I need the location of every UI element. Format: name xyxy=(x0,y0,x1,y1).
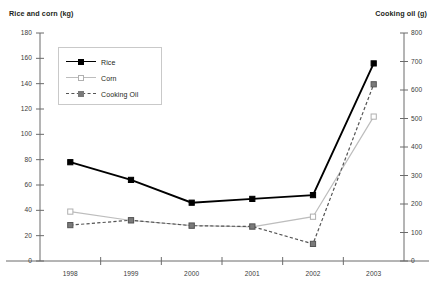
data-point xyxy=(189,200,194,205)
x-axis-tick-label: 2003 xyxy=(344,270,404,277)
data-point xyxy=(68,209,73,214)
legend-label-corn: Corn xyxy=(101,75,117,82)
right-axis-tick-label: 600 xyxy=(411,86,433,93)
left-axis-tick-label: 0 xyxy=(10,257,32,264)
x-axis-tick-label: 2002 xyxy=(283,270,343,277)
data-point xyxy=(189,223,194,228)
left-axis-tick-label: 160 xyxy=(10,54,32,61)
data-point xyxy=(371,61,376,66)
data-point xyxy=(250,196,255,201)
left-axis-tick-label: 20 xyxy=(10,232,32,239)
right-axis-tick-label: 500 xyxy=(411,115,433,122)
plot-area xyxy=(0,0,435,297)
x-axis-tick-label: 1998 xyxy=(40,270,100,277)
x-axis-tick-label: 2001 xyxy=(222,270,282,277)
legend-label-rice: Rice xyxy=(101,59,115,66)
x-axis-tick-label: 1999 xyxy=(101,270,161,277)
left-axis-tick-label: 80 xyxy=(10,156,32,163)
chart-legend: Rice Corn Cooking Oil xyxy=(58,47,162,105)
left-axis-tick-label: 180 xyxy=(10,29,32,36)
data-point xyxy=(128,218,133,223)
left-axis-tick-label: 100 xyxy=(10,130,32,137)
series-corn xyxy=(68,114,377,229)
data-point xyxy=(128,177,133,182)
series-cooking-oil xyxy=(68,82,377,247)
chart-container: Rice and corn (kg) Cooking oil (g) Rice … xyxy=(0,0,435,297)
right-axis-tick-label: 100 xyxy=(411,229,433,236)
right-axis-tick-label: 0 xyxy=(411,257,433,264)
left-axis-tick-label: 40 xyxy=(10,206,32,213)
data-point xyxy=(250,224,255,229)
legend-item-cooking-oil: Cooking Oil xyxy=(66,86,155,102)
data-point xyxy=(310,241,315,246)
x-axis-tick-label: 2000 xyxy=(162,270,222,277)
right-axis-tick-label: 700 xyxy=(411,58,433,65)
data-point xyxy=(371,114,376,119)
data-point xyxy=(310,214,315,219)
data-point xyxy=(310,193,315,198)
data-point xyxy=(371,82,376,87)
right-axis-tick-label: 800 xyxy=(411,29,433,36)
legend-swatch-corn xyxy=(66,72,96,84)
legend-item-rice: Rice xyxy=(66,54,155,70)
right-axis-tick-label: 300 xyxy=(411,172,433,179)
right-axis-tick-label: 400 xyxy=(411,143,433,150)
data-point xyxy=(68,160,73,165)
series-line xyxy=(70,117,373,227)
data-point xyxy=(68,223,73,228)
left-axis-tick-label: 140 xyxy=(10,80,32,87)
legend-label-cooking-oil: Cooking Oil xyxy=(101,91,138,98)
right-axis-tick-label: 200 xyxy=(411,200,433,207)
left-axis-tick-label: 120 xyxy=(10,105,32,112)
legend-swatch-rice xyxy=(66,56,96,68)
legend-swatch-cooking-oil xyxy=(66,88,96,100)
legend-item-corn: Corn xyxy=(66,70,155,86)
left-axis-tick-label: 60 xyxy=(10,181,32,188)
